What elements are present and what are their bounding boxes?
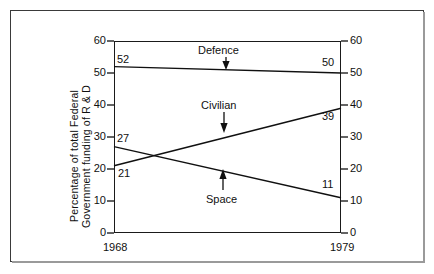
series-line-civilian (114, 108, 341, 166)
annotation-arrow-civilian (220, 112, 227, 133)
left-axis-ticks (107, 41, 114, 233)
series-line-defence (114, 67, 341, 73)
chart-page: Percentage of total Federal Government f… (0, 0, 434, 274)
series-line-space (114, 147, 341, 198)
chart-canvas (0, 0, 434, 274)
annotation-arrow-defence (222, 57, 229, 70)
right-axis-ticks (341, 41, 348, 233)
